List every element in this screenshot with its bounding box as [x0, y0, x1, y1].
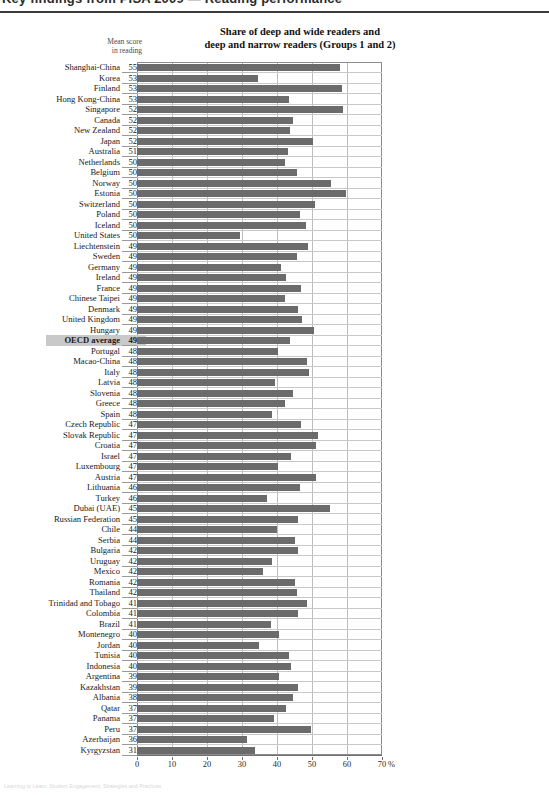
bar — [137, 495, 267, 502]
mean-score-header-line-2: in reading — [90, 47, 142, 56]
bar — [137, 673, 279, 680]
bar — [137, 421, 301, 428]
x-axis-line — [137, 755, 382, 756]
x-tick-label: 0 — [122, 760, 152, 769]
bar — [137, 642, 259, 649]
bar — [137, 390, 293, 397]
bar — [137, 201, 315, 208]
bar — [137, 75, 258, 82]
bar — [137, 631, 279, 638]
bar — [137, 652, 289, 659]
x-axis: 010203040506070 — [0, 755, 549, 775]
bar — [137, 400, 285, 407]
bar — [137, 96, 289, 103]
bar — [137, 568, 263, 575]
bar — [137, 663, 291, 670]
bar — [137, 463, 278, 470]
bar — [137, 348, 278, 355]
bar — [137, 180, 331, 187]
bar — [137, 600, 307, 607]
bar — [137, 117, 293, 124]
bar — [137, 232, 240, 239]
chart-title: Share of deep and wide readers and deep … — [150, 26, 450, 51]
x-tick-label: 40 — [262, 760, 292, 769]
bar — [137, 190, 346, 197]
bar — [137, 705, 286, 712]
bar — [137, 369, 309, 376]
x-tick-label: 20 — [192, 760, 222, 769]
page-footer: Learning to Learn: Student Engagement, S… — [4, 783, 334, 793]
bar — [137, 589, 297, 596]
bar — [137, 505, 330, 512]
bar — [137, 432, 318, 439]
bar — [137, 411, 272, 418]
bar — [137, 85, 342, 92]
bar — [137, 243, 308, 250]
bar — [137, 358, 307, 365]
bar — [137, 526, 277, 533]
x-tick-label: 60 — [332, 760, 362, 769]
chart-title-line-2: deep and narrow readers (Groups 1 and 2) — [150, 39, 450, 52]
bar — [137, 484, 300, 491]
bar — [137, 621, 271, 628]
bar — [137, 442, 316, 449]
bar — [137, 274, 286, 281]
bar — [137, 379, 275, 386]
bar — [137, 295, 285, 302]
bar — [137, 558, 272, 565]
x-axis-unit-label: % — [388, 760, 395, 769]
bar — [137, 474, 316, 481]
bar — [137, 516, 298, 523]
bar — [137, 694, 293, 701]
bar — [137, 726, 311, 733]
bar — [137, 64, 340, 71]
bar — [137, 106, 343, 113]
bar — [137, 264, 281, 271]
x-tick-label: 10 — [157, 760, 187, 769]
bar — [137, 138, 313, 145]
bar — [137, 579, 295, 586]
bar — [137, 736, 247, 743]
mean-score-column-header: Mean score in reading — [90, 38, 142, 55]
bar — [137, 337, 290, 344]
bar — [137, 159, 285, 166]
bar — [137, 327, 314, 334]
chart-figure: Share of deep and wide readers and deep … — [0, 0, 549, 795]
bar — [137, 715, 274, 722]
bar — [137, 148, 288, 155]
chart-title-line-1: Share of deep and wide readers and — [150, 26, 450, 39]
x-tick-label: 30 — [227, 760, 257, 769]
bar — [137, 306, 298, 313]
bar — [137, 537, 295, 544]
x-tick-label: 50 — [297, 760, 327, 769]
bar — [137, 253, 297, 260]
bar — [137, 610, 298, 617]
bar — [137, 222, 306, 229]
bar — [137, 285, 301, 292]
bar — [137, 169, 297, 176]
bar — [137, 547, 298, 554]
bar — [137, 211, 300, 218]
bar — [137, 453, 291, 460]
bar — [137, 316, 302, 323]
bar — [137, 127, 290, 134]
bar — [137, 684, 298, 691]
bar — [137, 747, 255, 754]
